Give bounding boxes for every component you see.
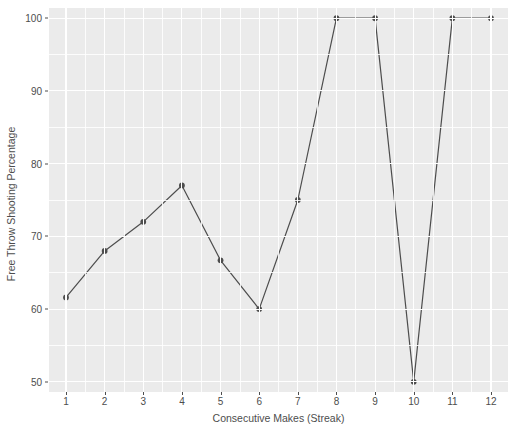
- gridline-vertical-minor: [471, 8, 472, 392]
- x-axis-tick-label: 7: [295, 396, 301, 407]
- x-axis-title: Consecutive Makes (Streak): [49, 412, 508, 424]
- x-axis-tick-mark: [143, 392, 144, 395]
- x-axis-tick-label: 10: [408, 396, 419, 407]
- gridline-vertical-major: [181, 8, 182, 392]
- y-axis-tick-label: 90: [16, 85, 42, 96]
- x-axis-tick-label: 8: [334, 396, 340, 407]
- gridline-vertical-major: [104, 8, 105, 392]
- gridline-vertical-major: [65, 8, 66, 392]
- x-axis-tick-mark: [336, 392, 337, 395]
- x-axis-tick-label: 6: [256, 396, 262, 407]
- x-axis-tick-mark: [491, 392, 492, 395]
- gridline-vertical-minor: [355, 8, 356, 392]
- x-axis-tick-mark: [105, 392, 106, 395]
- gridline-vertical-minor: [278, 8, 279, 392]
- y-axis-tick-mark: [45, 18, 48, 19]
- gridline-vertical-minor: [201, 8, 202, 392]
- y-axis-tick-label: 100: [16, 13, 42, 24]
- chart-canvas: Free Throw Shooting Percentage 506070809…: [0, 0, 519, 438]
- x-axis-tick-mark: [66, 392, 67, 395]
- x-axis-tick-mark: [375, 392, 376, 395]
- x-axis-tick-label: 2: [102, 396, 108, 407]
- x-axis-tick-label: 5: [218, 396, 224, 407]
- x-axis-tick-mark: [259, 392, 260, 395]
- x-axis-tick-mark: [298, 392, 299, 395]
- y-axis-tick-label: 50: [16, 376, 42, 387]
- gridline-vertical-major: [220, 8, 221, 392]
- gridline-vertical-major: [297, 8, 298, 392]
- x-axis-tick-mark: [414, 392, 415, 395]
- plot-panel: [49, 8, 508, 392]
- gridline-vertical-minor: [433, 8, 434, 392]
- x-axis-tick-mark: [221, 392, 222, 395]
- x-axis-tick-mark: [452, 392, 453, 395]
- x-axis-tick-label: 1: [63, 396, 69, 407]
- gridline-vertical-minor: [394, 8, 395, 392]
- gridline-vertical-minor: [240, 8, 241, 392]
- gridline-vertical-major: [413, 8, 414, 392]
- y-axis-tick-label: 70: [16, 231, 42, 242]
- y-axis-tick-mark: [45, 381, 48, 382]
- gridline-vertical-minor: [162, 8, 163, 392]
- gridline-vertical-major: [452, 8, 453, 392]
- x-axis-tick-mark: [182, 392, 183, 395]
- gridline-vertical-major: [490, 8, 491, 392]
- gridline-vertical-minor: [124, 8, 125, 392]
- y-axis-tick-labels: 5060708090100: [16, 0, 42, 438]
- y-axis-tick-mark: [45, 309, 48, 310]
- gridline-vertical-minor: [317, 8, 318, 392]
- y-axis-tick-mark: [45, 163, 48, 164]
- x-axis-tick-label: 11: [447, 396, 457, 407]
- gridline-vertical-major: [143, 8, 144, 392]
- x-axis-tick-label: 9: [372, 396, 378, 407]
- x-axis-tick-label: 4: [179, 396, 185, 407]
- y-axis-tick-label: 80: [16, 158, 42, 169]
- gridline-vertical-major: [259, 8, 260, 392]
- gridline-vertical-major: [375, 8, 376, 392]
- x-axis-tick-label: 3: [140, 396, 146, 407]
- y-axis-tick-label: 60: [16, 304, 42, 315]
- y-axis-tick-mark: [45, 236, 48, 237]
- gridline-vertical-minor: [85, 8, 86, 392]
- x-axis-tick-label: 12: [485, 396, 496, 407]
- x-axis-tick-labels: 123456789101112: [49, 396, 508, 410]
- gridline-vertical-major: [336, 8, 337, 392]
- y-axis-tick-mark: [45, 90, 48, 91]
